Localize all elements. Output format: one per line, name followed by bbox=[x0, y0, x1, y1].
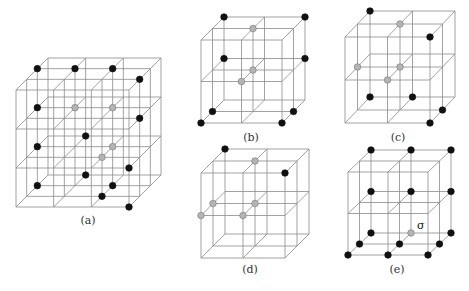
black-site-dot bbox=[367, 94, 374, 101]
panel-e-cubic-lattice: (e)σ bbox=[345, 147, 455, 276]
black-site-dot bbox=[198, 120, 205, 127]
gray-site-dot bbox=[198, 212, 205, 219]
panel-label: (b) bbox=[243, 131, 259, 144]
black-site-dot bbox=[222, 146, 229, 153]
black-site-dot bbox=[109, 182, 116, 189]
black-site-dot bbox=[368, 188, 375, 195]
black-site-dot bbox=[345, 252, 352, 259]
panel-label: (a) bbox=[80, 214, 95, 227]
sigma-annotation: σ bbox=[417, 219, 425, 232]
gray-site-dot bbox=[238, 78, 245, 85]
panel-label: (c) bbox=[391, 131, 406, 144]
black-site-dot bbox=[368, 230, 375, 237]
gray-site-dot bbox=[109, 104, 116, 111]
panel-label: (e) bbox=[389, 263, 404, 276]
black-site-dot bbox=[368, 147, 375, 154]
black-site-dot bbox=[109, 65, 116, 72]
gray-site-dot bbox=[99, 154, 106, 161]
black-site-dot bbox=[34, 65, 41, 72]
gray-site-dot bbox=[250, 67, 257, 74]
gray-site-dot bbox=[210, 200, 217, 207]
black-site-dot bbox=[136, 115, 143, 122]
gray-site-dot bbox=[252, 200, 259, 207]
black-site-dot bbox=[221, 14, 228, 21]
black-site-dot bbox=[385, 252, 392, 259]
black-site-dot bbox=[82, 172, 89, 179]
black-site-dot bbox=[356, 241, 363, 248]
black-site-dot bbox=[302, 55, 309, 62]
lattice-sites bbox=[34, 65, 143, 210]
black-site-dot bbox=[409, 94, 416, 101]
gray-site-dot bbox=[252, 158, 259, 165]
black-site-dot bbox=[209, 108, 216, 115]
panel-c-cubic-lattice: (c) bbox=[345, 8, 455, 144]
gray-site-dot bbox=[397, 21, 404, 28]
black-site-dot bbox=[99, 193, 106, 200]
black-site-dot bbox=[367, 8, 374, 15]
black-site-dot bbox=[282, 170, 289, 177]
gray-site-dot bbox=[408, 230, 415, 237]
black-site-dot bbox=[396, 241, 403, 248]
lattice-figure: (a) (b) (c) (d) (e)σ bbox=[0, 0, 469, 291]
black-site-dot bbox=[448, 188, 455, 195]
black-site-dot bbox=[448, 230, 455, 237]
gray-site-dot bbox=[240, 212, 247, 219]
black-site-dot bbox=[126, 204, 133, 211]
black-site-dot bbox=[439, 107, 446, 114]
black-site-dot bbox=[290, 108, 297, 115]
black-site-dot bbox=[448, 147, 455, 154]
gray-site-dot bbox=[109, 143, 116, 150]
panel-a-cubic-lattice: (a) bbox=[16, 58, 161, 227]
panel-label: (d) bbox=[242, 263, 258, 276]
black-site-dot bbox=[34, 104, 41, 111]
gray-site-dot bbox=[250, 25, 257, 32]
black-site-dot bbox=[34, 182, 41, 189]
black-site-dot bbox=[279, 120, 286, 127]
grid-lines bbox=[348, 150, 451, 255]
black-site-dot bbox=[221, 55, 228, 62]
panel-b-cubic-lattice: (b) bbox=[198, 14, 309, 144]
black-site-dot bbox=[427, 34, 434, 41]
black-site-dot bbox=[136, 76, 143, 83]
black-site-dot bbox=[126, 165, 133, 172]
black-site-dot bbox=[82, 133, 89, 140]
gray-site-dot bbox=[384, 77, 391, 84]
gray-site-dot bbox=[72, 104, 79, 111]
black-site-dot bbox=[72, 65, 79, 72]
black-site-dot bbox=[408, 188, 415, 195]
black-site-dot bbox=[425, 252, 432, 259]
black-site-dot bbox=[302, 14, 309, 21]
gray-site-dot bbox=[397, 64, 404, 71]
gray-site-dot bbox=[354, 64, 361, 71]
black-site-dot bbox=[34, 143, 41, 150]
panel-d-cubic-lattice: (d) bbox=[198, 146, 309, 276]
black-site-dot bbox=[408, 147, 415, 154]
black-site-dot bbox=[427, 120, 434, 127]
black-site-dot bbox=[436, 241, 443, 248]
